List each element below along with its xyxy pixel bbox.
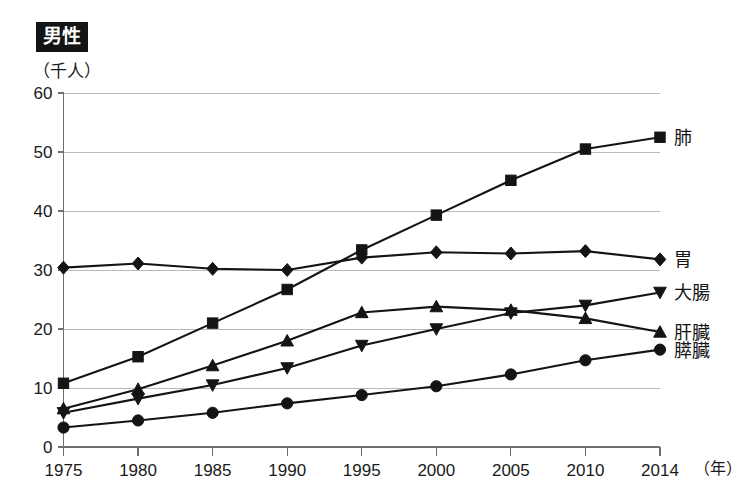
x-tick-label: 1975 <box>45 461 83 480</box>
x-tick-label: 2000 <box>417 461 455 480</box>
marker-circle <box>58 422 69 433</box>
line-chart-plot: 0102030405060 19751980198519901995200020… <box>0 0 746 485</box>
marker-square <box>580 144 590 154</box>
marker-circle <box>207 407 218 418</box>
marker-square <box>207 318 217 328</box>
y-tick-label: 40 <box>34 202 53 221</box>
y-tick-label: 20 <box>34 320 53 339</box>
axes <box>58 93 661 456</box>
marker-triangle-up <box>281 335 294 347</box>
marker-square <box>133 352 143 362</box>
x-tick-label: 1990 <box>268 461 306 480</box>
x-tick-label: 2010 <box>567 461 605 480</box>
y-tick-label: 30 <box>34 261 53 280</box>
marker-square <box>282 284 292 294</box>
marker-square <box>58 378 68 388</box>
marker-circle <box>132 415 143 426</box>
marker-diamond <box>431 246 443 259</box>
marker-diamond <box>654 253 666 266</box>
marker-diamond <box>281 264 293 277</box>
y-tick-label: 10 <box>34 379 53 398</box>
marker-diamond <box>58 261 70 274</box>
series-labels: 肺胃大腸肝臓膵臓 <box>674 128 710 360</box>
marker-circle <box>580 355 591 366</box>
marker-circle <box>431 381 442 392</box>
marker-diamond <box>505 247 517 260</box>
marker-circle <box>356 389 367 400</box>
y-tick-label: 0 <box>43 438 52 457</box>
chart-container: 男性 （千人） （年） 0102030405060 19751980198519… <box>0 0 746 485</box>
marker-diamond <box>207 262 219 275</box>
series-label-0: 肺 <box>674 128 692 148</box>
series-label-2: 大腸 <box>674 283 710 303</box>
x-tick-label: 2014 <box>641 461 679 480</box>
marker-square <box>506 175 516 185</box>
y-tick-labels: 0102030405060 <box>34 84 53 457</box>
marker-circle <box>654 344 665 355</box>
y-tick-label: 60 <box>34 84 53 103</box>
marker-diamond <box>580 245 592 258</box>
marker-diamond <box>132 257 144 270</box>
series-label-1: 胃 <box>674 250 692 270</box>
x-tick-label: 2005 <box>492 461 530 480</box>
x-tick-label: 1985 <box>194 461 232 480</box>
x-tick-label: 1995 <box>343 461 381 480</box>
x-tick-label: 1980 <box>119 461 157 480</box>
marker-square <box>655 132 665 142</box>
x-tick-labels: 197519801985199019952000200520102014 <box>45 461 679 480</box>
y-tick-label: 50 <box>34 143 53 162</box>
marker-square <box>431 210 441 220</box>
marker-circle <box>505 369 516 380</box>
series-line-4 <box>64 350 661 428</box>
marker-circle <box>282 398 293 409</box>
series-lines <box>64 137 661 427</box>
series-label-4: 膵臓 <box>674 341 710 361</box>
